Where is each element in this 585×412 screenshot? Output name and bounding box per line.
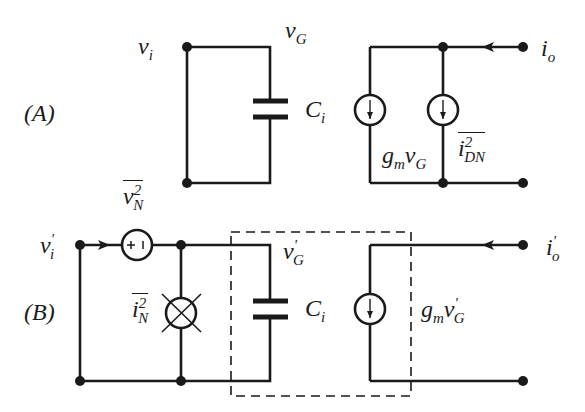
node-io-label: io	[541, 36, 555, 65]
current-source-gmvg-prime-icon	[355, 294, 385, 324]
node-vi-prime-label: v'i	[40, 232, 54, 262]
panel-label-b: (B)	[24, 300, 55, 324]
gmvg-label: gmvG	[382, 143, 426, 172]
noise-current-source-in-crossed-icon	[162, 294, 201, 332]
circuit-diagram	[0, 0, 585, 412]
noise-voltage-source-vn-icon	[122, 230, 152, 260]
current-source-gmvg-icon	[355, 95, 385, 125]
panel-label-a: (A)	[24, 101, 55, 125]
node-vg-label: vG	[285, 18, 307, 47]
capacitor-ci-a	[253, 101, 288, 117]
node-vi-label: vi	[138, 34, 153, 63]
gmvg-prime-label: gmv'G	[421, 296, 465, 326]
capacitor-ci-b	[253, 301, 288, 317]
node-vg-prime-label: v'G	[283, 238, 304, 268]
vn-noise-label: v2N	[123, 180, 143, 213]
node-io-prime-label: i'o	[546, 234, 559, 264]
idn-noise-label: i2DN	[458, 132, 485, 165]
capacitor-ci-label: Ci	[305, 97, 325, 126]
in-noise-label: i2N	[132, 293, 148, 326]
capacitor-ci-b-label: Ci	[305, 296, 325, 325]
noise-current-source-idn-icon	[428, 95, 458, 125]
